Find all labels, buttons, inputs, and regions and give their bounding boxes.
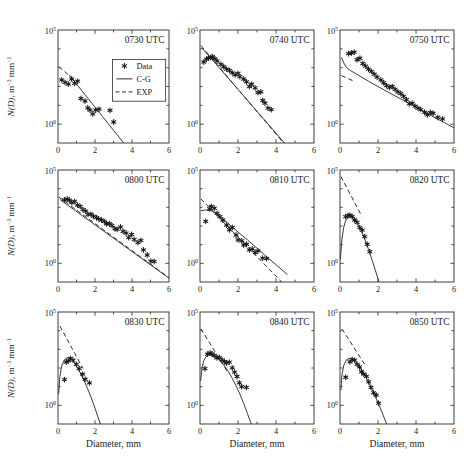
axes-frame (340, 30, 454, 143)
y-tick-label: 105 (327, 308, 338, 318)
x-tick-label: 0 (198, 285, 202, 294)
data-point-marker (436, 115, 440, 120)
x-tick-label: 0 (56, 427, 60, 436)
axis-ticks (340, 30, 454, 143)
x-tick-label: 2 (236, 146, 240, 155)
x-tick-label: 4 (414, 285, 419, 294)
data-point-marker (355, 57, 359, 62)
x-tick-label: 4 (414, 146, 419, 155)
cg-fit-curve (341, 358, 387, 424)
panel-title: 0740 UTC (270, 35, 310, 45)
data-point-marker (358, 56, 362, 61)
panel-title: 0840 UTC (270, 317, 310, 327)
data-point-marker (369, 385, 373, 390)
data-point-marker (141, 248, 145, 253)
y-tick-label: 100 (187, 119, 198, 129)
x-tick-label: 0 (338, 427, 342, 436)
y-tick-label: 105 (327, 26, 338, 36)
dsd-figure-page: 02461051000730 UTCN(D), m−3 mm−1DataC-GE… (0, 0, 476, 467)
data-point-marker (244, 385, 248, 390)
panel-title: 0830 UTC (125, 317, 165, 327)
panel-0830-utc: 02461051000830 UTCDiameter, mmN(D), m−3 … (6, 308, 171, 449)
data-point-marker (79, 96, 83, 101)
data-point-marker (121, 229, 125, 234)
panel-title: 0810 UTC (270, 175, 310, 185)
legend: DataC-GEXP (112, 59, 165, 101)
x-tick-label: 0 (56, 146, 60, 155)
x-tick-label: 2 (93, 285, 97, 294)
y-axis-title: N(D), m−3 mm−1 (6, 56, 16, 117)
exp-fit-curve (59, 67, 70, 76)
data-point-marker (235, 374, 239, 379)
data-points (60, 77, 116, 125)
y-axis-title: N(D), m−3 mm−1 (6, 338, 16, 399)
data-point-marker (204, 219, 208, 224)
panel-0840-utc: 02461051000840 UTCDiameter, mm (187, 308, 316, 449)
x-axis-title: Diameter, mm (369, 438, 425, 449)
panel-title: 0730 UTC (125, 35, 165, 45)
data-point-marker (108, 108, 112, 113)
data-point-marker (124, 231, 128, 236)
exp-fit-curve (59, 197, 169, 278)
axis-ticks (58, 312, 169, 424)
data-point-marker (256, 249, 260, 254)
cg-fit-curve (201, 355, 252, 424)
panel-title: 0800 UTC (125, 175, 165, 185)
axes-frame (200, 170, 314, 282)
exp-fit-curve (342, 76, 355, 82)
data-point-marker (253, 85, 257, 90)
exp-fit-curve (341, 177, 362, 217)
x-tick-label: 2 (376, 285, 380, 294)
panel-title: 0750 UTC (410, 35, 450, 45)
data-point-marker (70, 77, 74, 82)
x-tick-label: 0 (338, 146, 342, 155)
x-tick-label: 4 (130, 285, 135, 294)
cg-fit-curve (202, 48, 285, 143)
data-point-marker (66, 82, 70, 87)
data-point-marker (83, 99, 87, 104)
y-tick-label: 105 (45, 166, 56, 176)
y-tick-label: 100 (327, 119, 338, 129)
legend-label: C-G (136, 75, 150, 84)
y-tick-label: 105 (45, 26, 56, 36)
raindrop-size-distribution-figure: 02461051000730 UTCN(D), m−3 mm−1DataC-GE… (0, 0, 476, 467)
panel-0800-utc: 02461051000800 UTCN(D), m−3 mm−1 (6, 166, 171, 294)
data-point-marker (344, 375, 348, 380)
y-tick-label: 100 (187, 258, 198, 268)
axes-frame (58, 312, 169, 424)
y-axis-title: N(D), m−3 mm−1 (6, 196, 16, 257)
data-point-marker (87, 380, 91, 385)
data-point-marker (230, 365, 234, 370)
data-point-marker (86, 212, 90, 217)
x-tick-label: 4 (414, 427, 419, 436)
x-tick-label: 0 (198, 427, 202, 436)
data-point-marker (233, 370, 237, 375)
data-point-marker (203, 366, 207, 371)
axes-frame (340, 170, 454, 282)
panel-0730-utc: 02461051000730 UTCN(D), m−3 mm−1DataC-GE… (6, 26, 171, 155)
data-point-marker (91, 112, 95, 117)
y-tick-label: 100 (45, 258, 56, 268)
x-tick-label: 0 (198, 146, 202, 155)
x-tick-label: 4 (130, 427, 135, 436)
axes-frame (200, 312, 314, 424)
x-tick-label: 2 (376, 146, 380, 155)
data-points (62, 197, 156, 264)
x-tick-label: 2 (93, 146, 97, 155)
x-axis-title: Diameter, mm (86, 438, 142, 449)
x-tick-label: 6 (312, 146, 316, 155)
data-points (344, 357, 381, 405)
panel-0750-utc: 02461051000750 UTC (327, 26, 456, 155)
cg-fit-curve (60, 200, 169, 279)
data-points (203, 350, 249, 389)
x-tick-label: 4 (274, 146, 279, 155)
data-points (346, 50, 444, 121)
y-tick-label: 105 (45, 308, 56, 318)
y-tick-label: 105 (187, 308, 198, 318)
x-tick-label: 2 (93, 427, 97, 436)
y-tick-label: 105 (187, 166, 198, 176)
x-tick-label: 2 (236, 285, 240, 294)
x-tick-label: 0 (56, 285, 60, 294)
y-tick-label: 100 (45, 400, 56, 410)
x-tick-label: 0 (338, 285, 342, 294)
